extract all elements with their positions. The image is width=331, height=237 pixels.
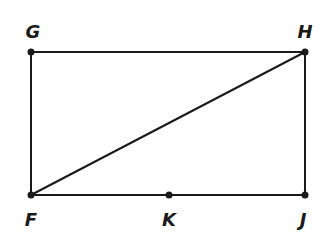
- rectangle-diagram: G H F K J: [0, 0, 331, 237]
- label-j: J: [297, 209, 307, 230]
- point-k: [166, 192, 173, 199]
- point-f: [28, 192, 35, 199]
- segment-fh-diagonal: [31, 52, 305, 195]
- point-g: [28, 49, 35, 56]
- label-g: G: [26, 21, 41, 42]
- point-j: [302, 192, 309, 199]
- label-f: F: [25, 209, 38, 230]
- point-h: [302, 49, 309, 56]
- label-h: H: [297, 21, 312, 42]
- segments: [31, 52, 305, 195]
- label-k: K: [162, 209, 178, 230]
